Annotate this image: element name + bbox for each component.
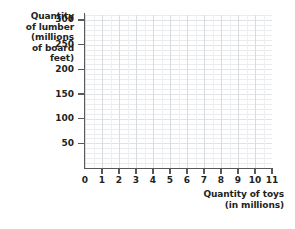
y-tick-mark: [78, 93, 85, 94]
x-tick-mark: [101, 168, 102, 174]
x-tick-mark: [271, 168, 272, 174]
gridline-vertical-minor: [247, 15, 248, 168]
y-tick-mark: [78, 143, 85, 144]
y-tick-label: 300: [2, 15, 74, 24]
gridline-vertical-major: [102, 15, 103, 168]
gridline-vertical-minor: [111, 15, 112, 168]
gridline-vertical-minor: [128, 15, 129, 168]
x-axis-title-line-1: Quantity of toys: [150, 189, 284, 200]
y-tick-label: 150: [2, 90, 74, 99]
y-tick-label: 250: [2, 40, 74, 49]
gridline-vertical-major: [238, 15, 239, 168]
gridline-vertical-major: [187, 15, 188, 168]
x-axis-title-line-2: (in millions): [150, 200, 284, 211]
chart-container: Quantity of lumber (millions of board fe…: [0, 0, 295, 229]
gridline-vertical-minor: [145, 15, 146, 168]
y-tick-label: 50: [2, 139, 74, 148]
x-tick-mark: [118, 168, 119, 174]
x-tick-mark: [152, 168, 153, 174]
gridline-vertical-major: [221, 15, 222, 168]
gridline-vertical-major: [255, 15, 256, 168]
gridline-vertical-major: [153, 15, 154, 168]
plot-area: [85, 15, 272, 168]
y-tick-label: 200: [2, 65, 74, 74]
gridline-vertical-minor: [179, 15, 180, 168]
gridline-vertical-minor: [264, 15, 265, 168]
gridline-vertical-major: [136, 15, 137, 168]
y-tick-label: 100: [2, 114, 74, 123]
gridline-vertical-minor: [213, 15, 214, 168]
x-tick-mark: [186, 168, 187, 174]
gridline-vertical-minor: [196, 15, 197, 168]
gridline-vertical-major: [204, 15, 205, 168]
x-tick-mark: [203, 168, 204, 174]
gridline-vertical-minor: [94, 15, 95, 168]
x-tick-mark: [135, 168, 136, 174]
x-axis-title: Quantity of toys (in millions): [150, 189, 284, 211]
gridline-vertical-minor: [162, 15, 163, 168]
gridline-vertical-major: [119, 15, 120, 168]
x-tick-mark: [220, 168, 221, 174]
y-tick-mark: [78, 118, 85, 119]
x-axis-line: [84, 168, 273, 169]
y-tick-mark: [78, 44, 85, 45]
y-tick-mark: [78, 19, 85, 20]
y-tick-mark: [78, 69, 85, 70]
x-tick-mark: [237, 168, 238, 174]
x-tick-mark: [169, 168, 170, 174]
gridline-vertical-major: [170, 15, 171, 168]
x-tick-label: 11: [260, 176, 284, 185]
y-axis-title-line-5: feet): [2, 53, 74, 64]
gridline-vertical-minor: [230, 15, 231, 168]
gridlines: [85, 15, 272, 168]
y-axis-line: [84, 13, 85, 169]
x-tick-mark: [254, 168, 255, 174]
